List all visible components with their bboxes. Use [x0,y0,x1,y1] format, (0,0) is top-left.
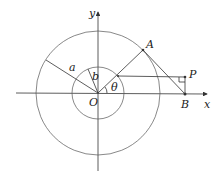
x-axis-label: x [204,98,211,111]
point-P-label: P [188,68,197,81]
point-A-label: A [145,38,154,51]
origin-label: O [89,96,98,109]
diagram-canvas: y x O A B P a b θ [0,0,219,179]
point-A-dot [142,49,145,52]
radius-b-label: b [92,70,99,83]
ray-OA [98,50,143,93]
y-axis-label: y [88,7,96,20]
point-P-dot [184,76,187,79]
radius-a-label: a [69,61,76,74]
theta-arc [105,87,107,93]
segment-AB [143,50,185,94]
theta-label: θ [111,81,118,94]
point-B-dot [184,93,187,96]
segment-to-P [118,76,185,77]
point-B-label: B [180,98,189,111]
inner-point-dot [117,75,119,77]
